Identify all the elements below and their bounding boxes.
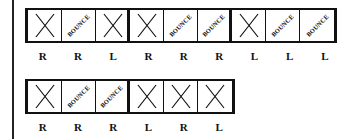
sequence-row-1-labels: R R L R R R L L L [25, 50, 343, 62]
direction-label: R [25, 121, 60, 133]
direction-label: L [237, 50, 272, 62]
direction-label: L [307, 50, 342, 62]
x-icon [164, 81, 198, 112]
cell-x [96, 10, 130, 41]
sequence-row-1-cells: BOUNCE BOUNCE BOUNCE BOUNCE BOUNCE [25, 8, 337, 43]
cell-bounce: BOUNCE [300, 10, 334, 41]
direction-label: R [25, 50, 60, 62]
bounce-label: BOUNCE [201, 13, 226, 38]
cell-bounce: BOUNCE [62, 81, 96, 112]
x-icon [130, 81, 164, 112]
x-icon [198, 81, 232, 112]
x-icon [96, 10, 130, 41]
cell-x [28, 10, 62, 41]
x-icon [232, 10, 266, 41]
cell-bounce: BOUNCE [198, 10, 232, 41]
direction-label: L [272, 50, 307, 62]
bounce-label: BOUNCE [66, 84, 91, 109]
sequence-row-2: BOUNCE BOUNCE [25, 79, 235, 114]
cell-bounce: BOUNCE [164, 10, 198, 41]
bounce-label: BOUNCE [168, 13, 193, 38]
cell-bounce: BOUNCE [266, 10, 300, 41]
left-margin-line [12, 0, 14, 139]
cell-x [232, 10, 266, 41]
sequence-row-2-labels: R R R L R L [25, 121, 237, 133]
direction-label: R [60, 121, 95, 133]
sequence-row-2-cells: BOUNCE BOUNCE [25, 79, 235, 114]
bounce-label: BOUNCE [304, 13, 329, 38]
bounce-label: BOUNCE [270, 13, 295, 38]
direction-label: R [201, 50, 236, 62]
direction-label: R [166, 50, 201, 62]
direction-label: R [131, 50, 166, 62]
cell-bounce: BOUNCE [62, 10, 96, 41]
cell-bounce: BOUNCE [96, 81, 130, 112]
cell-x [198, 81, 232, 112]
x-icon [28, 81, 62, 112]
direction-label: L [201, 121, 236, 133]
direction-label: L [96, 50, 131, 62]
x-icon [130, 10, 164, 41]
direction-label: R [96, 121, 131, 133]
cell-x [28, 81, 62, 112]
cell-x [130, 10, 164, 41]
direction-label: R [60, 50, 95, 62]
cell-x [130, 81, 164, 112]
bounce-label: BOUNCE [99, 84, 124, 109]
direction-label: R [166, 121, 201, 133]
cell-x [164, 81, 198, 112]
direction-label: L [131, 121, 166, 133]
x-icon [28, 10, 62, 41]
sequence-row-1: BOUNCE BOUNCE BOUNCE BOUNCE BOUNCE [25, 8, 337, 43]
bounce-label: BOUNCE [66, 13, 91, 38]
